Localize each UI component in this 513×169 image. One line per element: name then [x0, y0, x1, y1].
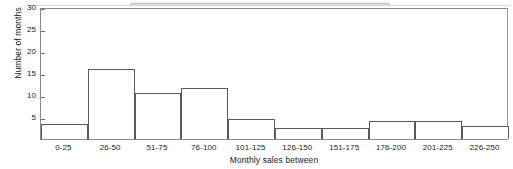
histogram-bar [322, 128, 369, 139]
y-axis-tick-label: 5 [20, 114, 36, 122]
y-axis-tick-mark [41, 119, 45, 120]
histogram-bar [41, 124, 88, 139]
y-axis-tick-labels: 51015202530 [18, 0, 36, 169]
histogram-figure: Number of months 51015202530 0-2526-5051… [0, 0, 513, 169]
histogram-bar [415, 121, 462, 139]
scan-artifact-line [30, 5, 510, 6]
x-axis-title: Monthly sales between [40, 155, 508, 165]
histogram-bar [88, 69, 135, 139]
x-axis-tick-label: 176-200 [368, 142, 415, 154]
histogram-bar [369, 121, 416, 139]
x-axis-tick-label: 0-25 [40, 142, 87, 154]
y-axis-tick-mark [41, 53, 45, 54]
y-axis-tick-label: 30 [20, 4, 36, 12]
y-axis-tick-mark [41, 97, 45, 98]
x-axis-tick-label: 26-50 [87, 142, 134, 154]
y-axis-tick-label: 10 [20, 92, 36, 100]
plot-inner [41, 9, 507, 139]
x-axis-tick-label: 151-175 [321, 142, 368, 154]
histogram-bar [228, 119, 275, 139]
x-axis-tick-labels: 0-2526-5051-7576-100101-125126-150151-17… [40, 142, 508, 156]
y-axis-tick-mark [41, 9, 45, 10]
y-axis-tick-label: 25 [20, 26, 36, 34]
x-axis-tick-label: 126-150 [274, 142, 321, 154]
y-axis-tick-mark [41, 31, 45, 32]
x-axis-tick-label: 51-75 [134, 142, 181, 154]
histogram-bar [462, 126, 509, 139]
histogram-bar [275, 128, 322, 139]
y-axis-tick-label: 20 [20, 48, 36, 56]
histogram-bar [181, 88, 228, 139]
histogram-bar [135, 93, 182, 139]
scan-artifact-streak [130, 2, 390, 6]
x-axis-tick-label: 201-225 [414, 142, 461, 154]
x-axis-tick-label: 226-250 [461, 142, 508, 154]
y-axis-tick-label: 15 [20, 70, 36, 78]
y-axis-tick-mark [41, 75, 45, 76]
plot-area [40, 8, 508, 140]
x-axis-tick-label: 101-125 [227, 142, 274, 154]
x-axis-tick-label: 76-100 [180, 142, 227, 154]
